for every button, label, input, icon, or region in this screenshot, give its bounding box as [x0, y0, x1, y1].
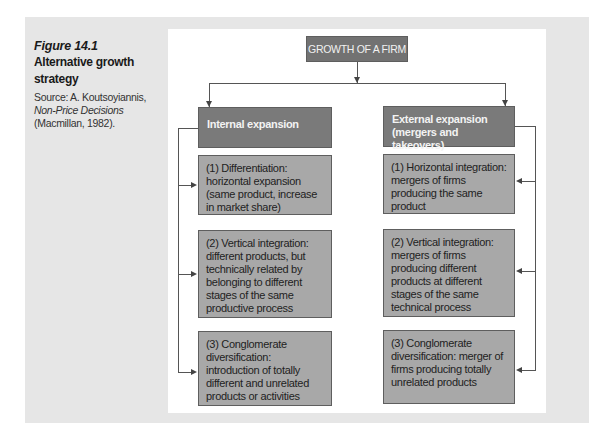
source-prefix: Source: A. Koutsoyiannis, — [34, 91, 146, 103]
left-branch-3 — [178, 372, 192, 373]
diagram-canvas: GROWTH OF A FIRM Internal expansion (1) … — [168, 29, 546, 413]
external-expansion-node: External expansion (mergers and takeover… — [383, 106, 515, 147]
right-trunk — [535, 126, 536, 371]
internal-item-2: (2) Vertical integration: different prod… — [198, 230, 332, 318]
arrow-right-icon — [191, 182, 197, 188]
external-item-1: (1) Horizontal integration: mergers of f… — [383, 154, 515, 214]
left-trunk-top — [178, 128, 198, 129]
right-branch-2 — [521, 271, 535, 272]
source-book: Non-Price Decisions — [34, 104, 123, 116]
left-trunk — [178, 128, 179, 373]
figure-title: Alternative growth strategy — [34, 54, 154, 88]
connector-horizontal — [209, 83, 506, 84]
arrow-left-icon — [516, 268, 522, 274]
source-suffix: (Macmillan, 1982). — [34, 117, 115, 129]
right-trunk-top — [515, 126, 535, 127]
internal-item-3: (3) Conglomerate diversification: introd… — [198, 331, 332, 406]
arrow-right-icon — [191, 271, 197, 277]
internal-expansion-node: Internal expansion — [198, 107, 332, 148]
arrow-right-icon — [191, 369, 197, 375]
external-item-3: (3) Conglomerate diversification: merger… — [383, 330, 515, 404]
internal-item-1: (1) Differentiation: horizontal expansio… — [198, 155, 332, 215]
arrow-left-icon — [516, 178, 522, 184]
figure-source: Source: A. Koutsoyiannis, Non-Price Deci… — [34, 91, 154, 130]
arrow-left-icon — [516, 367, 522, 373]
left-branch-1 — [178, 185, 192, 186]
right-branch-1 — [521, 181, 535, 182]
left-branch-2 — [178, 274, 192, 275]
right-branch-3 — [521, 370, 535, 371]
figure-number: Figure 14.1 — [34, 38, 154, 54]
external-item-2: (2) Vertical integration: mergers of fir… — [383, 229, 515, 317]
figure-caption: Figure 14.1 Alternative growth strategy … — [34, 38, 154, 130]
root-node: GROWTH OF A FIRM — [306, 36, 408, 62]
